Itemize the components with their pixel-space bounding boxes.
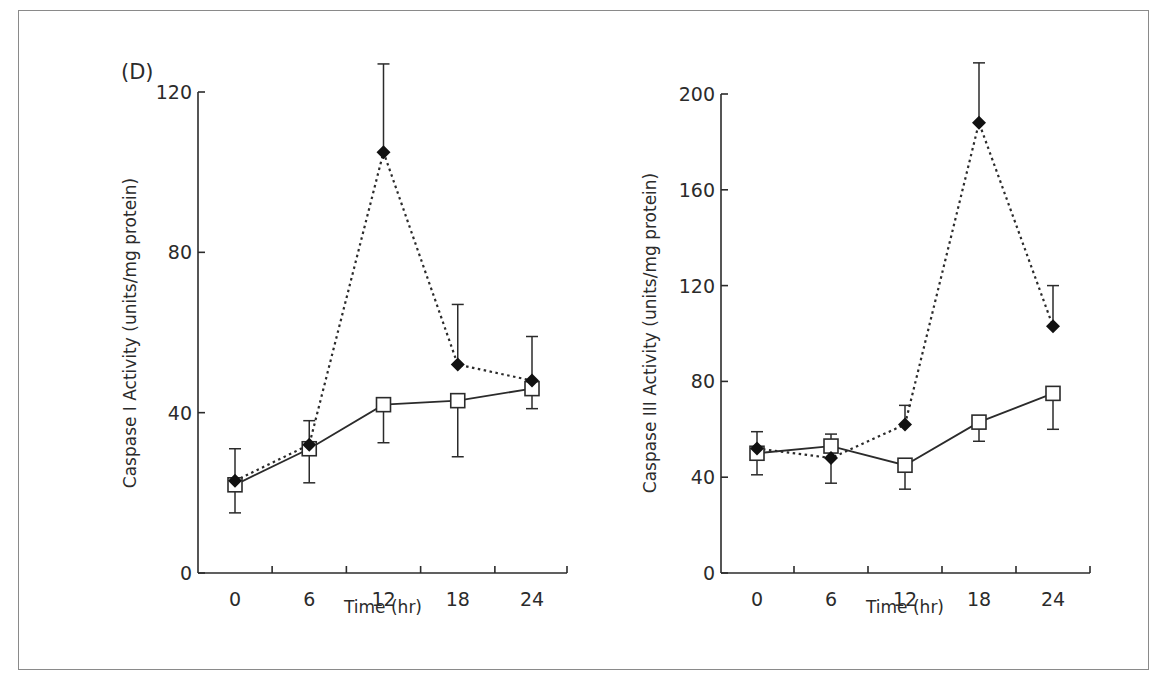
y-tick-label: 40 bbox=[168, 402, 192, 424]
figure-canvas: (D) 04080120 06121824 Time (hr) Caspase … bbox=[0, 0, 1166, 691]
y-tick-label: 120 bbox=[679, 275, 715, 297]
filled-diamond-marker bbox=[972, 116, 986, 130]
caspase-1-plot-area bbox=[228, 64, 539, 513]
open-square-marker bbox=[451, 394, 465, 408]
y-tick-label: 80 bbox=[691, 370, 715, 392]
filled-diamond-marker bbox=[377, 145, 391, 159]
caspase-3-plot-area bbox=[750, 63, 1060, 489]
caspase-3-chart: 04080120160200 06121824 Time (hr) Caspas… bbox=[640, 63, 1090, 617]
y-tick-label: 40 bbox=[691, 466, 715, 488]
y-tick-label: 0 bbox=[703, 562, 715, 584]
x-tick-label: 24 bbox=[1041, 588, 1065, 610]
caspase-1-chart: 04080120 06121824 Time (hr) Caspase I Ac… bbox=[120, 64, 567, 617]
y-tick-label: 0 bbox=[180, 562, 192, 584]
caspase-3-y-axis-title: Caspase III Activity (units/mg protein) bbox=[640, 173, 660, 493]
caspase-3-y-tick-labels: 04080120160200 bbox=[679, 83, 715, 584]
y-tick-label: 120 bbox=[156, 81, 192, 103]
open-square-marker bbox=[377, 398, 391, 412]
panel-label: (D) bbox=[121, 60, 154, 84]
x-tick-label: 0 bbox=[229, 588, 241, 610]
caspase-3-axes bbox=[721, 94, 1090, 573]
filled-diamond-marker bbox=[898, 418, 912, 432]
open-square-marker bbox=[972, 415, 986, 429]
caspase-1-axes bbox=[198, 92, 567, 573]
x-tick-label: 18 bbox=[967, 588, 991, 610]
x-tick-label: 6 bbox=[825, 588, 837, 610]
x-tick-label: 18 bbox=[446, 588, 470, 610]
caspase-1-x-axis-title: Time (hr) bbox=[343, 597, 422, 617]
y-tick-label: 160 bbox=[679, 179, 715, 201]
y-tick-label: 80 bbox=[168, 241, 192, 263]
open-square-marker bbox=[1046, 386, 1060, 400]
caspase-1-y-axis-title: Caspase I Activity (units/mg protein) bbox=[120, 178, 140, 488]
caspase-3-x-axis-title: Time (hr) bbox=[865, 597, 944, 617]
filled-diamond-marker bbox=[451, 358, 465, 372]
filled-diamond-marker bbox=[1046, 319, 1060, 333]
x-tick-label: 6 bbox=[303, 588, 315, 610]
x-tick-label: 0 bbox=[751, 588, 763, 610]
x-tick-label: 24 bbox=[520, 588, 544, 610]
open-square-marker bbox=[824, 439, 838, 453]
open-square-marker bbox=[898, 458, 912, 472]
caspase-1-y-tick-labels: 04080120 bbox=[156, 81, 192, 584]
y-tick-label: 200 bbox=[679, 83, 715, 105]
